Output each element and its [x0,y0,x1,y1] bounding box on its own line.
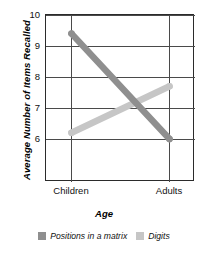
y-axis-tick-label: 6 [22,134,40,144]
legend-item: Digits [136,231,170,241]
y-axis-tick-label: 7 [22,103,40,113]
legend-swatch-icon [136,232,144,240]
plot-canvas [46,15,195,182]
chart-figure: Average Number of Items Recalled 10 9 8 … [0,0,208,258]
legend-item: Positions in a matrix [38,231,127,241]
x-axis-tick-label: Children [40,185,102,196]
x-axis-tick-label: Adults [139,185,199,196]
y-axis-tick-label: 9 [22,41,40,51]
plot-area [45,14,194,181]
y-axis-tick-label: 8 [22,72,40,82]
y-axis-title: Average Number of Items Recalled [19,10,35,190]
legend-swatch-icon [38,232,46,240]
y-axis-tick-label: 10 [22,10,40,20]
x-axis-title: Age [0,208,208,219]
chart-legend: Positions in a matrix Digits [0,231,208,241]
vertical-gridlines [72,15,170,182]
legend-item-label: Digits [148,231,170,241]
legend-item-label: Positions in a matrix [50,231,127,241]
